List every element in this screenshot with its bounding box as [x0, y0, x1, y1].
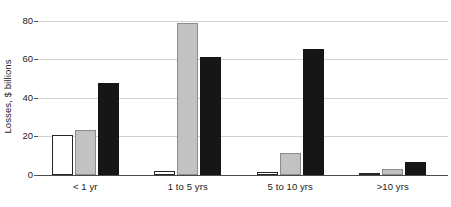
bar-chart: Losses, $ billions 020406080 < 1 yr1 to … [0, 0, 451, 207]
bar [177, 23, 198, 175]
y-tick-label: 20 [15, 131, 33, 141]
bar [280, 153, 301, 175]
bar [200, 57, 221, 175]
x-axis-category-label: >10 yrs [339, 181, 446, 192]
y-axis-title: Losses, $ billions [1, 9, 15, 184]
bar [303, 49, 324, 175]
bar [405, 162, 426, 176]
bar [75, 130, 96, 175]
x-axis-category-label: 5 to 10 yrs [237, 181, 344, 192]
bar-group [257, 13, 324, 175]
bar-group [52, 13, 119, 175]
x-axis-line [38, 175, 448, 176]
bar [52, 135, 73, 176]
y-tick-label: 40 [15, 93, 33, 103]
y-tick-label: 0 [15, 170, 33, 180]
bar-group [359, 13, 426, 175]
bar-group [154, 13, 221, 175]
x-axis-category-label: 1 to 5 yrs [134, 181, 241, 192]
y-tick-label: 80 [15, 16, 33, 26]
bar [98, 83, 119, 175]
plot-area [38, 13, 448, 176]
y-tick-label: 60 [15, 54, 33, 64]
x-axis-category-label: < 1 yr [32, 181, 139, 192]
